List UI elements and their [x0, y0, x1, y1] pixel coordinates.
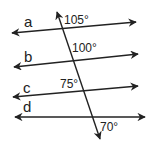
angle-label-105: 105°: [64, 13, 89, 27]
diagram: a b c d 105° 100° 75° 70°: [0, 0, 149, 149]
line-b: [14, 54, 138, 67]
diagram-canvas: a b c d 105° 100° 75° 70°: [0, 0, 149, 149]
line-label-a: a: [24, 13, 33, 30]
angle-label-70: 70°: [100, 120, 118, 134]
line-label-d: d: [23, 98, 31, 115]
angle-label-75: 75°: [60, 77, 78, 91]
line-label-c: c: [23, 79, 31, 96]
transversal-line: [57, 12, 100, 139]
angle-label-100: 100°: [72, 41, 97, 55]
line-label-b: b: [24, 48, 32, 65]
